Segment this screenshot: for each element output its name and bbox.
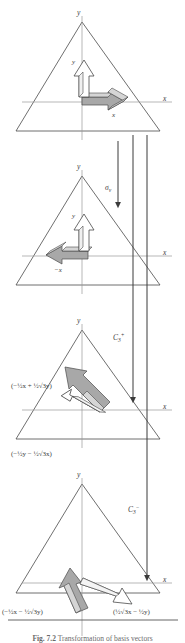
panel-c3-plus: y x (−½x + ½√3y) (−½y − ½√3x) xyxy=(11,316,172,458)
triangle-outline xyxy=(16,484,160,593)
rotated-open-vector-label: (½√3x − ½y) xyxy=(113,608,151,616)
y-basis-vector-label: y xyxy=(71,212,76,220)
rotated-open-vector xyxy=(80,578,132,604)
rotated-open-vector-label: (−½y − ½√3x) xyxy=(11,450,53,458)
axis-x-label: x xyxy=(162,575,167,584)
panel-identity: y x x y xyxy=(16,8,172,140)
sigma-v-operator-arrow: σv xyxy=(105,141,118,205)
rotated-shaded-vector-label: (−½x + ½√3y) xyxy=(11,382,53,390)
sigma-v-operator-label: σv xyxy=(105,183,112,193)
y-basis-vector xyxy=(74,214,94,251)
axis-y-label: y xyxy=(76,8,81,17)
x-basis-vector-label: x xyxy=(111,111,116,119)
figure-caption-label: Fig. 7.2 xyxy=(32,634,56,643)
axis-x-label: x xyxy=(162,402,167,411)
figure-container: y x x y y x −x xyxy=(0,0,185,643)
symmetry-operations-diagram: y x x y y x −x xyxy=(0,0,185,643)
x-basis-vector-label: −x xyxy=(54,266,63,274)
c3-minus-operator-arrow: C3− xyxy=(128,135,147,578)
panel-sigma-v: y x −x y xyxy=(16,162,172,294)
rotated-shaded-vector-label: (−½x − ½√3y) xyxy=(2,608,44,616)
figure-caption: Fig. 7.2 Transformation of basis vectors xyxy=(0,633,185,643)
axis-x-label: x xyxy=(162,248,167,257)
panel-c3-minus: y x (−½x − ½√3y) (½√3x − ½y) xyxy=(2,470,178,636)
c3-plus-operator-arrow: C3+ xyxy=(113,135,133,400)
y-basis-vector xyxy=(74,60,94,97)
axis-y-label: y xyxy=(76,162,81,171)
c3-minus-operator-label: C3− xyxy=(128,504,140,515)
axis-x-label: x xyxy=(162,94,167,103)
y-basis-vector-label: y xyxy=(71,58,76,66)
rotated-shaded-vector xyxy=(59,568,88,613)
axis-y-label: y xyxy=(76,316,81,325)
axis-y-label: y xyxy=(76,470,81,479)
figure-caption-text: Transformation of basis vectors xyxy=(58,634,153,643)
c3-plus-operator-label: C3+ xyxy=(113,332,125,343)
